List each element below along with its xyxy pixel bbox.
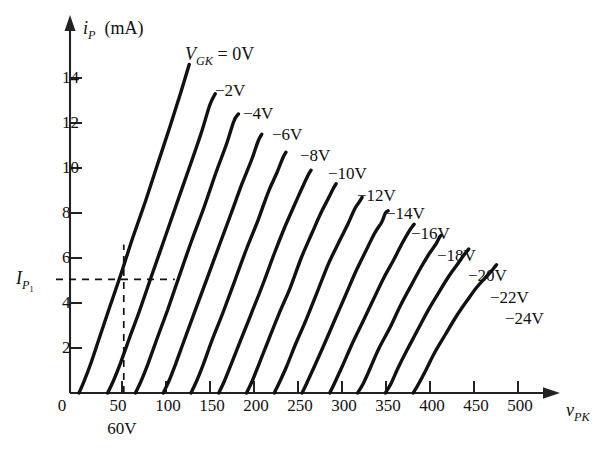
curve-label-neg10V: −10V [328, 164, 367, 184]
x-axis-title: vPK [566, 400, 590, 425]
curve-label-neg18V: −18V [437, 246, 476, 266]
xtick-label-200: 200 [243, 396, 269, 416]
curve--4V [135, 114, 238, 393]
parameter-label-vgk: VGK = 0V [185, 44, 254, 69]
xtick-label-350: 350 [375, 396, 401, 416]
curve-label-neg22V: −22V [490, 288, 529, 308]
construction-dashed-lines [56, 245, 175, 394]
x-axis-ticks [122, 381, 518, 393]
curve-label-neg20V: −20V [468, 266, 507, 286]
vgk-symbol: V [185, 44, 196, 64]
ytick-label-4: 4 [62, 293, 71, 313]
ytick-label-6: 6 [62, 248, 71, 268]
xtick-label-50: 50 [110, 396, 127, 416]
annotation-60v-label: 60V [107, 419, 136, 439]
xtick-label-250: 250 [287, 396, 313, 416]
x-axis-subscript: PK [574, 410, 590, 424]
xtick-label-500: 500 [507, 396, 533, 416]
curve-label-neg8V: −8V [300, 146, 330, 166]
xtick-label-300: 300 [331, 396, 357, 416]
ytick-label-2: 2 [62, 338, 71, 358]
curve-label-neg4V: −4V [243, 104, 273, 124]
curve--6V [163, 134, 262, 393]
xtick-label-150: 150 [199, 396, 225, 416]
curve-label-neg16V: −16V [411, 224, 450, 244]
xtick-label-450: 450 [463, 396, 489, 416]
y-axis-unit: (mA) [105, 18, 144, 38]
y-axis-title: iP 0(mA) [83, 18, 144, 43]
curve-label-neg2V: −2V [215, 81, 245, 101]
y-axis-subscript: P [88, 28, 95, 42]
vgk-value: = 0V [218, 44, 255, 64]
curve-label-neg14V: −14V [386, 204, 425, 224]
ytick-label-14: 14 [62, 68, 79, 88]
vgk-subscript: GK [196, 54, 213, 68]
annotation-ip1-label: IP1 [16, 268, 34, 294]
xtick-label-100: 100 [155, 396, 181, 416]
curve-label-neg6V: −6V [272, 125, 302, 145]
ytick-label-8: 8 [62, 203, 71, 223]
y-axis-arrowhead [65, 15, 76, 31]
x-axis-symbol: v [566, 400, 574, 420]
ytick-label-12: 12 [62, 113, 79, 133]
ip1-subscript: P1 [22, 278, 34, 292]
characteristic-curves-chart [0, 0, 614, 456]
xtick-label-0: 0 [58, 396, 67, 416]
curve-0V [79, 65, 189, 394]
xtick-label-400: 400 [419, 396, 445, 416]
curve-label-neg12V: −12V [357, 186, 396, 206]
axes [65, 15, 561, 399]
ytick-label-10: 10 [62, 158, 79, 178]
x-axis-arrowhead [543, 387, 560, 399]
curve-label-neg24V: −24V [505, 309, 544, 329]
